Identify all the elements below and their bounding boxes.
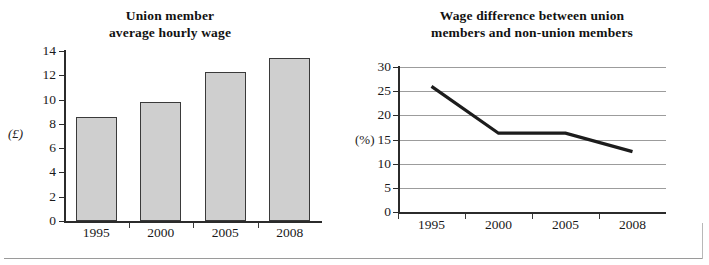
line-chart-plot-area: (%) 051015202530 1995200020052008 — [355, 0, 709, 258]
bar-chart-x-tick-mark — [129, 223, 130, 228]
line-chart-x-origin-tick-mark — [398, 214, 399, 219]
line-chart-x-tick-mark — [532, 214, 533, 219]
bar-chart-x-tick-label: 2008 — [258, 226, 322, 240]
bar-chart-bar — [140, 102, 181, 221]
bar-chart-bar — [76, 117, 117, 221]
bar-chart-x-tick-mark — [258, 223, 259, 228]
bar-chart-y-tick-label: 4 — [26, 165, 56, 179]
bar-chart-bar — [205, 72, 246, 221]
bar-chart-y-tick-label: 6 — [26, 141, 56, 155]
line-chart-x-tick-mark — [599, 214, 600, 219]
bar-chart-y-tick-mark — [59, 124, 64, 125]
bar-chart-y-tick-mark — [59, 148, 64, 149]
bar-chart-y-tick-mark — [59, 51, 64, 52]
bar-chart-y-tick-mark — [59, 172, 64, 173]
bar-chart-x-tick-mark — [193, 223, 194, 228]
bar-chart-y-tick-mark — [59, 100, 64, 101]
figure-page: Union member average hourly wage Union m… — [0, 0, 709, 265]
bar-chart-y-tick-label: 14 — [26, 44, 56, 58]
line-chart-polyline — [432, 86, 633, 151]
union-wage-bar-chart: Union member average hourly wage Union m… — [0, 0, 355, 258]
bar-chart-y-tick-label: 0 — [26, 214, 56, 228]
line-chart-x-tick-label: 1995 — [400, 218, 464, 232]
bar-chart-y-axis-line — [64, 50, 66, 223]
bar-chart-y-tick-mark — [59, 221, 64, 222]
bar-chart-x-tick-label: 2005 — [193, 226, 257, 240]
bar-chart-x-tick-label: 1995 — [64, 226, 128, 240]
page-right-rule — [702, 223, 703, 259]
bar-chart-y-tick-label: 12 — [26, 68, 56, 82]
bar-chart-y-tick-label: 10 — [26, 93, 56, 107]
bar-chart-y-tick-mark — [59, 197, 64, 198]
line-chart-x-tick-label: 2005 — [534, 218, 598, 232]
bar-chart-bar — [269, 58, 310, 221]
line-chart-x-tick-label: 2000 — [467, 218, 531, 232]
bar-chart-y-tick-mark — [59, 75, 64, 76]
bar-chart-y-axis-label: (£) — [8, 126, 23, 142]
wage-difference-line-chart: Wage difference between union members an… — [355, 0, 709, 258]
line-chart-x-tick-label: 2008 — [601, 218, 665, 232]
bar-chart-y-tick-label: 8 — [26, 117, 56, 131]
page-bottom-rule — [4, 258, 703, 259]
line-chart-x-tick-mark — [465, 214, 466, 219]
bar-chart-y-tick-label: 2 — [26, 190, 56, 204]
bar-chart-x-tick-label: 2000 — [129, 226, 193, 240]
bar-chart-plot-area: (£) 02468101214 1995200020052008 — [0, 0, 355, 258]
